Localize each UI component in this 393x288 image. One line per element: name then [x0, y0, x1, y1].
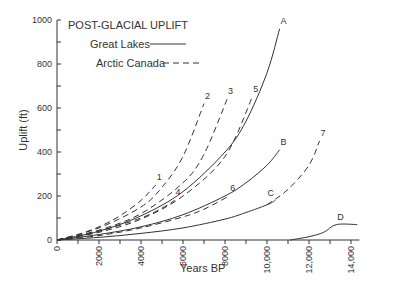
- curve-label-2: 2: [205, 91, 210, 101]
- chart-title: POST-GLACIAL UPLIFT: [68, 19, 188, 31]
- x-tick-label: 2000: [94, 246, 104, 266]
- curve-label-7: 7: [321, 128, 326, 138]
- curve-label-A: A: [281, 16, 287, 26]
- y-tick-label: 600: [37, 103, 52, 113]
- curve-label-6: 6: [230, 183, 235, 193]
- uplift-chart: 020040060080010000200040006000800010,000…: [0, 0, 393, 288]
- y-tick-label: 400: [37, 147, 52, 157]
- y-tick-label: 0: [47, 235, 52, 245]
- curve-A: [57, 29, 280, 240]
- curve-D: [290, 224, 357, 240]
- curve-2: [57, 104, 204, 240]
- curve-7: [267, 141, 320, 205]
- curve-label-3: 3: [228, 86, 233, 96]
- curve-label-4: 4: [176, 187, 181, 197]
- x-tick-label: 14,000: [346, 246, 356, 274]
- curve-3: [57, 99, 227, 240]
- y-tick-label: 1000: [32, 15, 52, 25]
- legend-great-lakes-label: Great Lakes: [90, 38, 150, 50]
- chart-canvas: 020040060080010000200040006000800010,000…: [0, 0, 393, 288]
- curve-label-5: 5: [253, 84, 258, 94]
- x-tick-label: 10,000: [262, 246, 272, 274]
- x-tick-label: 4000: [136, 246, 146, 266]
- y-tick-label: 200: [37, 191, 52, 201]
- y-tick-label: 800: [37, 59, 52, 69]
- curve-5: [57, 97, 252, 240]
- curve-label-D: D: [337, 212, 344, 222]
- x-axis-label: Years BP: [180, 262, 225, 274]
- curve-label-1: 1: [157, 172, 162, 182]
- curve-label-C: C: [267, 188, 274, 198]
- legend-arctic-canada-label: Arctic Canada: [96, 57, 166, 69]
- curve-label-B: B: [281, 137, 287, 147]
- x-tick-label: 12,000: [304, 246, 314, 274]
- curve-1: [57, 185, 156, 240]
- x-tick-label: 0: [52, 246, 62, 251]
- y-axis-label: Uplift (ft): [17, 109, 29, 151]
